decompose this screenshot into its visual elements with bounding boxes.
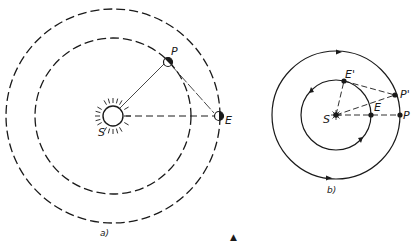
marker-triangle-icon: ▲ — [230, 232, 237, 242]
label-p: P — [171, 45, 178, 58]
sun-icon — [103, 106, 123, 126]
label-e: E — [225, 114, 232, 127]
caption-b: b) — [327, 185, 336, 195]
astronomy-diagram: S P E a) S E P E' P' b — [0, 0, 411, 245]
sun-star-icon — [331, 110, 341, 120]
arrow-icon — [336, 50, 342, 55]
label-e: E — [374, 101, 381, 114]
earth-point — [368, 112, 373, 117]
line-planet-to-earth — [172, 66, 214, 113]
arrow-icon — [326, 176, 332, 181]
planet-prime-point — [392, 92, 397, 97]
label-e-prime: E' — [345, 68, 355, 81]
panel-b: S E P E' P' b) — [272, 50, 410, 196]
line-sun-to-planet — [119, 64, 164, 109]
label-s: S — [323, 113, 330, 126]
line-s-pprime — [336, 95, 395, 115]
label-p-prime: P' — [400, 88, 410, 101]
line-s-eprime — [336, 81, 344, 115]
label-s: S — [98, 126, 105, 139]
panel-a: S P E a) — [6, 9, 232, 238]
caption-a: a) — [100, 228, 109, 238]
earth-icon — [215, 112, 224, 121]
label-p: P — [403, 109, 410, 122]
planet-point — [397, 112, 402, 117]
